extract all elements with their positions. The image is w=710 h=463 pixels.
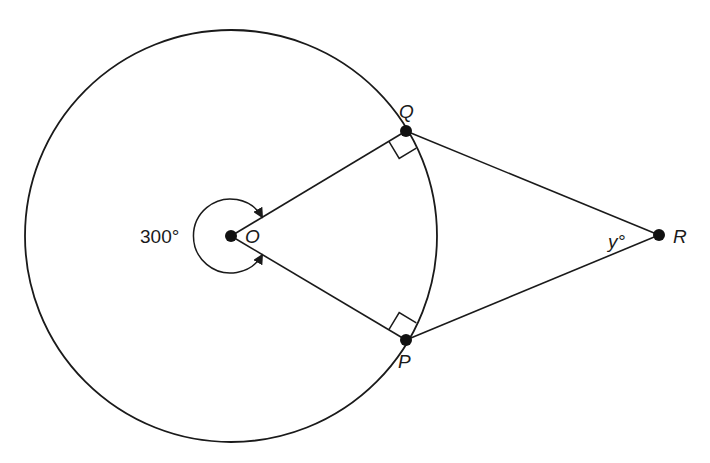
point-P — [400, 334, 412, 346]
point-R — [653, 229, 665, 241]
label-angle-y: y° — [606, 231, 626, 252]
right-angle-mark-P — [389, 313, 416, 330]
label-R: R — [673, 226, 687, 247]
label-reflex-angle: 300° — [140, 226, 179, 247]
right-angle-mark-Q — [389, 141, 416, 158]
point-O — [225, 230, 237, 242]
circle-diagram: O Q P R 300° y° — [0, 0, 710, 463]
label-O: O — [245, 226, 260, 247]
radius-OP — [231, 236, 406, 340]
label-Q: Q — [399, 101, 414, 122]
tangent-QR — [406, 131, 659, 235]
radius-OQ — [231, 131, 406, 236]
point-Q — [400, 125, 412, 137]
label-P: P — [398, 351, 411, 372]
